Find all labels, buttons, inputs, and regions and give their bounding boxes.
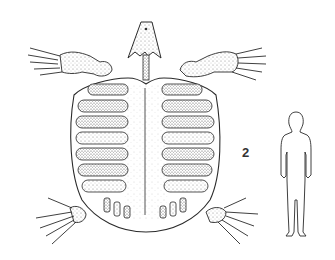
- skull-icon: [128, 22, 161, 80]
- human-scale-icon: [281, 112, 311, 236]
- rear-left-flipper: [36, 198, 86, 244]
- figure-label: 2: [242, 145, 249, 160]
- illustration: 2: [0, 0, 335, 260]
- turtle-skeleton-drawing: [0, 0, 335, 260]
- rear-right-flipper: [206, 198, 258, 244]
- front-left-flipper: [28, 48, 112, 76]
- front-right-flipper: [180, 48, 266, 80]
